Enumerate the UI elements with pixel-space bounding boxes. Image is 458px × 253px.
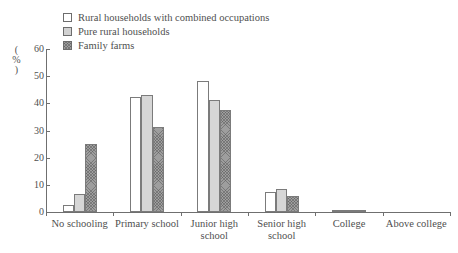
legend-label: Rural households with combined occupatio…	[78, 12, 269, 23]
bar	[265, 192, 276, 212]
legend-item-rural-combined: Rural households with combined occupatio…	[63, 11, 269, 24]
x-tick-mark	[450, 212, 451, 216]
bar-group	[332, 49, 366, 212]
bar-group	[197, 49, 231, 212]
x-axis-category-label: Above college	[375, 218, 458, 230]
bar	[153, 127, 164, 212]
x-tick-mark	[383, 212, 384, 216]
y-tick-label: 30	[4, 126, 44, 136]
y-tick-label-wrap: 0	[0, 207, 44, 217]
bar	[355, 210, 366, 212]
bar	[74, 194, 85, 212]
bar	[287, 196, 298, 212]
y-tick-label: 60	[4, 44, 44, 54]
y-tick-label: 50	[4, 71, 44, 81]
y-tick-label: 40	[4, 98, 44, 108]
y-tick-label: 10	[4, 180, 44, 190]
y-tick-label-wrap: 10	[0, 180, 44, 190]
bar	[197, 81, 208, 212]
plot-area	[46, 49, 450, 212]
bar-group	[130, 49, 164, 212]
bar	[85, 144, 96, 212]
bar	[209, 100, 220, 212]
x-tick-mark	[248, 212, 249, 216]
bar	[141, 95, 152, 212]
y-tick-label-wrap: 60	[0, 44, 44, 54]
bar-group	[265, 49, 299, 212]
x-tick-mark	[315, 212, 316, 216]
bar	[130, 97, 141, 212]
legend-label: Pure rural households	[78, 26, 170, 37]
legend-swatch-dotted-icon	[63, 27, 72, 36]
y-tick-label-wrap: 50	[0, 71, 44, 81]
bar	[63, 205, 74, 212]
x-tick-mark	[113, 212, 114, 216]
x-tick-mark	[181, 212, 182, 216]
y-tick-label-wrap: 30	[0, 126, 44, 136]
y-tick-label: 0	[4, 207, 44, 217]
y-tick-label-wrap: 40	[0, 98, 44, 108]
bar-group	[399, 49, 433, 212]
y-tick-label: 20	[4, 153, 44, 163]
x-tick-mark	[46, 212, 47, 216]
bar	[343, 210, 354, 212]
bar	[332, 210, 343, 212]
bar-group	[63, 49, 97, 212]
legend-swatch-white-icon	[63, 13, 72, 22]
chart-legend: Rural households with combined occupatio…	[63, 11, 269, 53]
bar	[276, 189, 287, 212]
bar	[220, 110, 231, 212]
bar-chart: Rural households with combined occupatio…	[0, 0, 458, 253]
y-tick-label-wrap: 20	[0, 153, 44, 163]
legend-item-pure-rural: Pure rural households	[63, 25, 269, 38]
